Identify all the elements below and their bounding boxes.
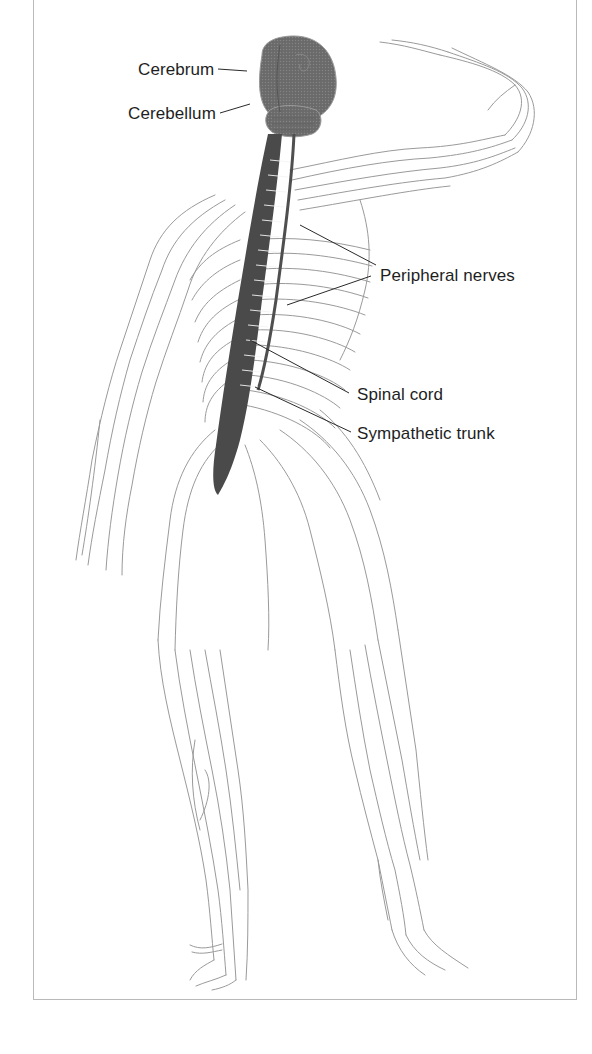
leader-cerebrum	[218, 69, 247, 71]
nervous-system-illustration	[0, 0, 592, 1054]
peripheral-nerve-strands	[76, 40, 534, 990]
label-spinal-cord: Spinal cord	[357, 386, 443, 403]
label-peripheral-nerves: Peripheral nerves	[380, 267, 515, 284]
label-cerebellum: Cerebellum	[128, 105, 216, 122]
label-cerebrum: Cerebrum	[138, 61, 214, 78]
leader-sympathetic-trunk	[255, 387, 351, 432]
cerebellum-shape	[266, 106, 321, 137]
brain	[260, 36, 337, 137]
label-sympathetic-trunk: Sympathetic trunk	[357, 425, 495, 442]
leader-peripheral-1	[300, 225, 376, 265]
leader-peripheral-2	[287, 276, 371, 305]
leader-cerebellum	[220, 104, 250, 113]
